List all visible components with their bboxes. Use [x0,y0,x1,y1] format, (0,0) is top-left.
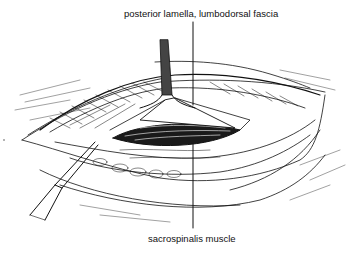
forceps-icon [30,142,98,220]
label-sacrospinalis-muscle: sacrospinalis muscle [148,233,236,244]
label-posterior-lamella: posterior lamella, lumbodorsal fascia [124,8,278,19]
surgical-illustration [0,0,349,257]
